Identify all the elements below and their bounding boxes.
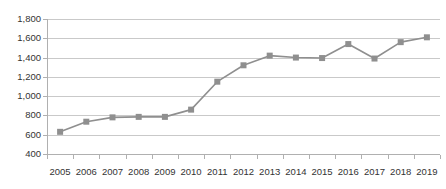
- x-axis-tick-label: 2007: [102, 167, 123, 177]
- x-axis-tick-label: 2012: [233, 167, 254, 177]
- line-chart: 1,8001,6001,4001,2001,000800600400 20052…: [0, 0, 446, 189]
- data-point-marker: [398, 39, 404, 45]
- x-axis-tick-label: 2005: [50, 167, 71, 177]
- x-axis-tick-mark: [414, 155, 415, 159]
- y-axis-tick-mark: [43, 115, 47, 116]
- y-axis-tick-mark: [43, 19, 47, 20]
- data-point-marker: [57, 129, 63, 135]
- series-markers: [57, 34, 430, 135]
- x-axis-tick-label: 2006: [76, 167, 97, 177]
- x-axis-tick-mark: [440, 155, 441, 159]
- x-axis-tick-mark: [309, 155, 310, 159]
- data-point-marker: [372, 56, 378, 62]
- data-point-marker: [136, 114, 142, 120]
- x-axis-tick-label: 2013: [259, 167, 280, 177]
- x-axis-tick-mark: [126, 155, 127, 159]
- x-axis-tick-label: 2009: [154, 167, 175, 177]
- data-point-marker: [267, 53, 273, 59]
- y-axis-tick-mark: [43, 77, 47, 78]
- x-axis-tick-mark: [204, 155, 205, 159]
- x-axis-tick-label: 2016: [338, 167, 359, 177]
- y-axis-tick-mark: [43, 135, 47, 136]
- data-point-marker: [214, 79, 220, 85]
- y-axis-tick-mark: [43, 154, 47, 155]
- x-axis-tick-mark: [99, 155, 100, 159]
- y-axis-tick-mark: [43, 58, 47, 59]
- y-axis-tick-mark: [43, 38, 47, 39]
- x-axis-tick-mark: [335, 155, 336, 159]
- data-point-marker: [188, 107, 194, 113]
- x-axis-tick-label: 2011: [207, 167, 227, 177]
- x-axis-tick-mark: [152, 155, 153, 159]
- x-axis-tick-mark: [388, 155, 389, 159]
- data-point-marker: [293, 55, 299, 61]
- x-axis-tick-mark: [47, 155, 48, 159]
- data-point-marker: [345, 41, 351, 47]
- x-axis-tick-mark: [283, 155, 284, 159]
- x-axis-tick-label: 2010: [181, 167, 202, 177]
- x-axis-tick-label: 2018: [390, 167, 411, 177]
- x-axis-tick-mark: [73, 155, 74, 159]
- data-point-marker: [424, 34, 430, 40]
- x-axis-tick-label: 2015: [312, 167, 333, 177]
- x-axis-tick-label: 2017: [364, 167, 385, 177]
- data-point-marker: [83, 119, 89, 125]
- x-axis-tick-mark: [361, 155, 362, 159]
- x-axis-tick-label: 2008: [128, 167, 149, 177]
- x-axis-tick-label: 2019: [416, 167, 437, 177]
- x-axis-tick-mark: [230, 155, 231, 159]
- data-point-marker: [110, 114, 116, 120]
- data-point-marker: [241, 62, 247, 68]
- x-axis-tick-label: 2014: [285, 167, 306, 177]
- x-axis-tick-mark: [257, 155, 258, 159]
- data-series-layer: [0, 0, 446, 189]
- y-axis-tick-mark: [43, 96, 47, 97]
- data-point-marker: [162, 114, 168, 120]
- data-point-marker: [319, 55, 325, 61]
- x-axis-tick-mark: [178, 155, 179, 159]
